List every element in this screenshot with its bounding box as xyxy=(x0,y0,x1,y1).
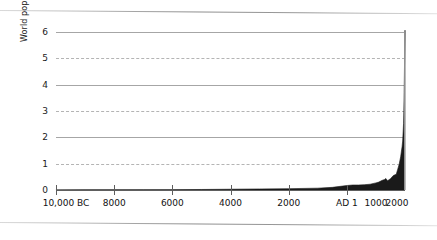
x-tick-4000 xyxy=(231,185,232,195)
x-tick-6000 xyxy=(172,185,173,195)
x-tick-label-6000: 6000 xyxy=(161,198,184,208)
plot-right-edge xyxy=(404,32,405,190)
x-tick-label-2000: 2000 xyxy=(277,198,300,208)
x-tick-label-1000: 1000 xyxy=(364,198,387,208)
page-rule-bottom xyxy=(0,222,437,226)
y-tick-label-1: 1 xyxy=(42,159,48,169)
y-tick-label-3: 3 xyxy=(42,106,48,116)
plot-area: 6543210 World population, billions 10,00… xyxy=(56,32,405,190)
y-tick-label-0: 0 xyxy=(42,185,48,195)
x-tick-AD-1 xyxy=(347,185,348,195)
y-tick-label-5: 5 xyxy=(42,53,48,63)
x-tick-label-2000: 2000 xyxy=(386,198,409,208)
x-tick-label-AD-1: AD 1 xyxy=(336,198,358,208)
page-rule-top xyxy=(0,10,437,14)
y-tick-label-2: 2 xyxy=(42,132,48,142)
x-tick-label-8000: 8000 xyxy=(103,198,126,208)
x-tick-label-4000: 4000 xyxy=(219,198,242,208)
chart-figure: 6543210 World population, billions 10,00… xyxy=(0,0,437,240)
x-tick-2000 xyxy=(289,185,290,195)
x-tick-label-10-000-BC: 10,000 BC xyxy=(43,198,90,208)
y-tick-label-4: 4 xyxy=(42,80,48,90)
x-tick-10-000-BC xyxy=(56,185,57,195)
y-axis-title: World population, billions xyxy=(20,0,29,42)
population-series-area xyxy=(56,32,405,190)
x-tick-8000 xyxy=(114,185,115,195)
y-tick-label-6: 6 xyxy=(42,27,48,37)
